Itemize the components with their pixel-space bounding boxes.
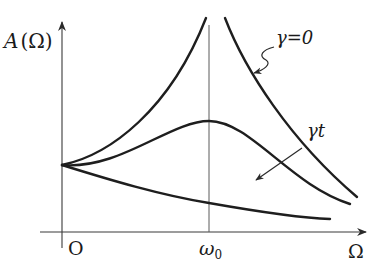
labels: A(Ω) O ω0 Ω γ=0 γt bbox=[2, 27, 364, 262]
undamped-label: γ=0 bbox=[276, 27, 313, 48]
damping-direction-arrow bbox=[256, 148, 302, 180]
undamped-pointer-arrow bbox=[254, 47, 274, 73]
overdamped-curve bbox=[62, 165, 330, 219]
damping-direction-label: γt bbox=[307, 120, 326, 141]
resonance-frequency-label: ω0 bbox=[199, 237, 222, 262]
y-axis-label: A(Ω) bbox=[2, 29, 53, 53]
y-axis-argument: (Ω) bbox=[20, 29, 52, 53]
x-axis-label: Ω bbox=[348, 240, 364, 262]
undamped-curve-left-branch bbox=[62, 18, 206, 165]
omega-subscript: 0 bbox=[215, 248, 223, 262]
y-axis-symbol: A bbox=[2, 29, 18, 53]
resonance-diagram: A(Ω) O ω0 Ω γ=0 γt bbox=[0, 0, 378, 279]
omega-symbol: ω bbox=[199, 237, 215, 259]
origin-label: O bbox=[68, 237, 84, 259]
